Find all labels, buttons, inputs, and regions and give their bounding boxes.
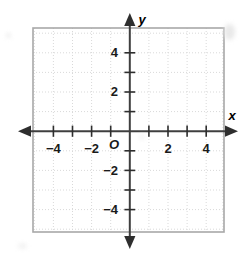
x-axis-name: x [227,108,236,123]
x-tick-label-4: 4 [203,141,211,156]
coordinate-plane-screenshot: −4 −2 2 4 4 2 −2 −4 O x y [0,0,248,259]
y-axis-name: y [137,12,146,27]
y-tick-label-2: 2 [111,84,118,99]
x-tick-label-neg4: −4 [46,141,62,156]
x-axis-arrow-left [18,126,31,137]
origin-label: O [109,137,119,152]
y-axis-arrow-up [124,13,135,26]
x-tick-label-neg2: −2 [84,141,99,156]
plot-background [33,28,224,232]
x-axis-arrow-right [225,126,238,137]
coordinate-plane-figure: −4 −2 2 4 4 2 −2 −4 O x y [0,0,248,259]
y-axis-arrow-down [124,236,135,249]
y-tick-label-neg2: −2 [103,163,118,178]
y-tick-label-neg4: −4 [103,202,119,217]
y-tick-label-4: 4 [111,45,119,60]
x-tick-label-2: 2 [164,141,171,156]
